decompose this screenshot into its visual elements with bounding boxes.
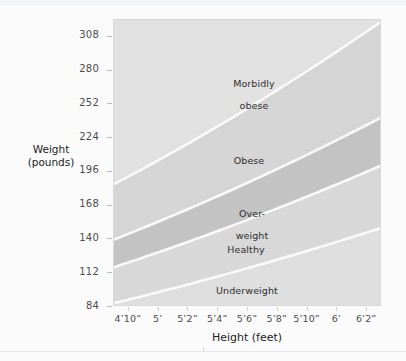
x-tick-mark-7 [336, 307, 337, 311]
page-bottom-tick [203, 347, 204, 352]
page-top-edge [0, 0, 406, 5]
x-tick-label-8: 6’2” [344, 313, 388, 324]
x-tick-mark-3 [217, 307, 218, 311]
y-tick-label-112: 112 [55, 266, 99, 277]
chart-page: Weight (pounds) 308280252224196168140112… [0, 0, 406, 361]
x-tick-mark-4 [247, 307, 248, 311]
y-tick-mark-308 [107, 36, 112, 37]
y-tick-label-196: 196 [55, 164, 99, 175]
plot-area: Morbidly obese Obese Over- weight Health… [113, 19, 381, 306]
x-tick-mark-6 [307, 307, 308, 311]
y-tick-label-252: 252 [55, 97, 99, 108]
y-tick-mark-252 [107, 103, 112, 104]
x-tick-mark-1 [158, 307, 159, 311]
y-tick-mark-84 [107, 306, 112, 307]
y-tick-label-280: 280 [55, 63, 99, 74]
x-tick-mark-2 [187, 307, 188, 311]
y-tick-mark-224 [107, 137, 112, 138]
y-tick-label-168: 168 [55, 198, 99, 209]
y-tick-mark-196 [107, 171, 112, 172]
y-tick-label-308: 308 [55, 29, 99, 40]
x-axis-title: Height (feet) [113, 331, 381, 344]
y-axis-title-line1: Weight [18, 143, 84, 156]
y-tick-mark-280 [107, 70, 112, 71]
bmi-band-svg [114, 20, 380, 305]
x-tick-mark-5 [277, 307, 278, 311]
x-tick-mark-8 [366, 307, 367, 311]
y-tick-mark-140 [107, 238, 112, 239]
paper-grain-overlay [114, 20, 380, 305]
y-tick-mark-168 [107, 205, 112, 206]
x-tick-mark-0 [128, 307, 129, 311]
y-tick-label-84: 84 [55, 300, 99, 311]
y-tick-label-224: 224 [55, 131, 99, 142]
y-tick-mark-112 [107, 272, 112, 273]
y-tick-label-140: 140 [55, 232, 99, 243]
